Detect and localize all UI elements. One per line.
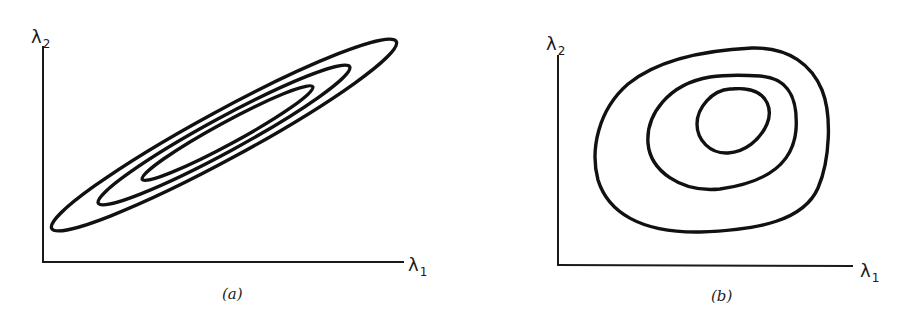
x-axis-line (557, 265, 853, 266)
panel-b-plot (0, 0, 901, 317)
panel-b-caption: (b) (711, 287, 732, 305)
panel-b-contours (595, 48, 828, 232)
y-axis-label: λ2 (546, 35, 565, 57)
panel-b-axes (557, 55, 853, 266)
x-axis-label: λ1 (860, 262, 879, 284)
contour-inner (697, 89, 769, 153)
